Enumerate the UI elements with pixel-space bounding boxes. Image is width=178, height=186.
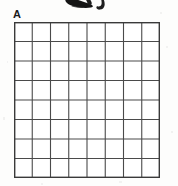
grid-cell[interactable] (32, 159, 50, 179)
grid-cell[interactable] (105, 139, 123, 159)
grid-cell[interactable] (51, 81, 69, 101)
grid-cell[interactable] (32, 139, 50, 159)
grid-cell[interactable] (51, 22, 69, 42)
grid-cell[interactable] (51, 61, 69, 81)
grid-cell[interactable] (14, 42, 32, 62)
grid-cell[interactable] (142, 159, 160, 179)
grid-cell[interactable] (32, 120, 50, 140)
grid-cell[interactable] (142, 120, 160, 140)
grid-cell[interactable] (87, 139, 105, 159)
grid-cell[interactable] (87, 120, 105, 140)
grid-cell[interactable] (69, 22, 87, 42)
grid-cell[interactable] (124, 100, 142, 120)
grid-cell[interactable] (87, 61, 105, 81)
grid-cell[interactable] (142, 61, 160, 81)
grid-cell[interactable] (32, 61, 50, 81)
grid-cell[interactable] (32, 22, 50, 42)
grid-cell[interactable] (51, 120, 69, 140)
grid-cell[interactable] (32, 81, 50, 101)
grid-cell[interactable] (124, 159, 142, 179)
grid-cell[interactable] (14, 120, 32, 140)
grid-cell[interactable] (105, 81, 123, 101)
grid-cell[interactable] (142, 100, 160, 120)
grid-cell[interactable] (124, 22, 142, 42)
answer-grid[interactable] (14, 22, 160, 178)
grid-cell[interactable] (69, 120, 87, 140)
grid-cell[interactable] (14, 81, 32, 101)
grid-cell[interactable] (105, 22, 123, 42)
answer-grid-svg (14, 22, 160, 178)
grid-cell[interactable] (105, 120, 123, 140)
grid-cell[interactable] (87, 159, 105, 179)
grid-cell[interactable] (105, 100, 123, 120)
grid-cell[interactable] (14, 139, 32, 159)
grid-cell[interactable] (124, 61, 142, 81)
grid-cell[interactable] (51, 42, 69, 62)
panel-label: A (13, 8, 21, 20)
grid-cell[interactable] (124, 42, 142, 62)
grid-cell[interactable] (142, 81, 160, 101)
grid-cell[interactable] (105, 42, 123, 62)
grid-cell[interactable] (14, 22, 32, 42)
grid-cell[interactable] (14, 100, 32, 120)
grid-cell[interactable] (105, 61, 123, 81)
grid-cell[interactable] (69, 159, 87, 179)
grid-cell[interactable] (142, 139, 160, 159)
grid-cell[interactable] (69, 100, 87, 120)
grid-cell[interactable] (105, 159, 123, 179)
grid-cell[interactable] (32, 42, 50, 62)
grid-cell[interactable] (69, 42, 87, 62)
grid-cell[interactable] (124, 81, 142, 101)
grid-cell[interactable] (69, 139, 87, 159)
grid-cell[interactable] (69, 61, 87, 81)
grid-cell[interactable] (14, 61, 32, 81)
grid-cell[interactable] (51, 100, 69, 120)
grid-cell[interactable] (51, 159, 69, 179)
grid-cell[interactable] (69, 81, 87, 101)
grid-cell[interactable] (87, 81, 105, 101)
scanned-page: A (0, 0, 178, 186)
grid-cell[interactable] (32, 100, 50, 120)
grid-cell[interactable] (142, 42, 160, 62)
grid-cell[interactable] (87, 100, 105, 120)
grid-cell[interactable] (87, 22, 105, 42)
grid-cell[interactable] (142, 22, 160, 42)
cut-off-handwriting-ink (0, 0, 178, 14)
grid-cell[interactable] (124, 120, 142, 140)
grid-cell[interactable] (51, 139, 69, 159)
grid-cell[interactable] (124, 139, 142, 159)
grid-cell[interactable] (14, 159, 32, 179)
grid-cell[interactable] (87, 42, 105, 62)
